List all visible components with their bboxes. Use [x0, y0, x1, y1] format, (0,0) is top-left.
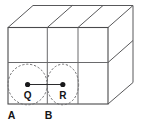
- point-q-dot: [25, 82, 30, 87]
- edge-right-face-row-divider: [108, 41, 133, 63]
- edge-top-right-receding: [108, 6, 133, 28]
- corner-label-a: A: [8, 109, 16, 121]
- box-top-face: [8, 6, 133, 28]
- figure-canvas: Q R A B: [0, 0, 141, 121]
- edge-bottom-right-receding: [108, 83, 133, 105]
- point-r-dot: [60, 82, 65, 87]
- point-r-label: R: [59, 90, 67, 101]
- box-right-face: [108, 41, 133, 63]
- corner-label-b: B: [45, 109, 53, 121]
- box-back-edges: [33, 6, 133, 105]
- edge-top-divider1-receding: [47, 6, 72, 28]
- edge-top-divider2-receding: [78, 6, 103, 28]
- geometry-figure: Q R A B: [0, 0, 141, 121]
- edge-top-left-receding: [8, 6, 33, 28]
- point-q-label: Q: [24, 90, 32, 101]
